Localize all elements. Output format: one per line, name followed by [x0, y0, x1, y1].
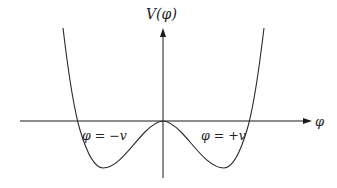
minus-v-label: φ = −v: [82, 128, 127, 143]
y-axis-arrow-icon: [160, 28, 166, 37]
y-axis-label: V(φ): [146, 6, 177, 22]
x-axis-arrow-icon: [303, 118, 312, 124]
x-axis-label: φ: [315, 114, 325, 129]
plus-v-label: φ = +v: [201, 128, 246, 143]
double-well-potential-diagram: V(φ) φ φ = −v φ = +v: [0, 0, 337, 188]
